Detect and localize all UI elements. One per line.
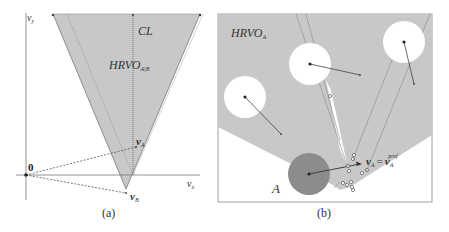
centerline-label: CL [138, 24, 153, 38]
hrvo-a-label: HRVOA [230, 26, 266, 40]
obstacle-2-tip [359, 74, 361, 76]
obstacle-1-center [243, 95, 246, 98]
obstacle-3-tip [413, 83, 415, 85]
obstacle-1-tip [280, 133, 282, 135]
y-axis-label: vy [27, 12, 34, 24]
vector-b [26, 175, 126, 193]
origin-label: 0 [28, 161, 34, 173]
caption-b: (b) [317, 206, 331, 220]
origin-dot [24, 173, 28, 177]
agent-a-label: A [271, 181, 280, 196]
obstacle-3-center [402, 40, 405, 43]
obstacle-2-center [308, 62, 311, 65]
vb-label: vB [130, 190, 139, 203]
panel-b: HRVOA A vA=vApref (b) [218, 14, 432, 220]
panel-a: vy vx 0 CL HRVOA|B vA vB (a) [16, 12, 203, 220]
caption-a: (a) [102, 206, 115, 220]
centerline-top-dot [132, 14, 134, 16]
x-axis-label: vx [187, 178, 194, 190]
agent-a-center [307, 172, 310, 175]
vb-dot [125, 192, 127, 194]
figure: vy vx 0 CL HRVOA|B vA vB (a) [0, 0, 449, 232]
